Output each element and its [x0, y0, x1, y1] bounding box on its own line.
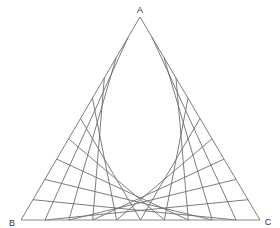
grid-line-parallel-ab — [93, 159, 224, 220]
grid-line-parallel-ab — [45, 200, 248, 220]
vertex-label-c: C — [265, 217, 272, 227]
grid-line-parallel-ab — [69, 179, 236, 220]
grid-line-parallel-ac — [33, 200, 236, 220]
grid-line-parallel-ac — [57, 159, 189, 220]
grid-line-parallel-ac — [45, 179, 212, 220]
vertex-label-b: B — [9, 218, 15, 228]
ternary-diagram: A B C — [0, 0, 280, 228]
ternary-grid-lines — [21, 17, 260, 220]
vertex-label-a: A — [137, 5, 143, 15]
